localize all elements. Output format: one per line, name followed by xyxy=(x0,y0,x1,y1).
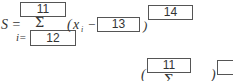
second-partial-box[interactable] xyxy=(217,60,233,75)
second-close-paren: ) xyxy=(211,67,216,81)
variable-subscript: i xyxy=(81,25,83,34)
open-paren: ( xyxy=(67,17,72,33)
close-paren: ) xyxy=(143,18,147,34)
sigma-symbol: Σ xyxy=(35,15,44,30)
variable-x: x xyxy=(73,17,79,33)
second-upper-limit-box[interactable]: 11 xyxy=(147,58,191,73)
subtrahend-box[interactable]: 13 xyxy=(97,17,140,32)
index-label: i= xyxy=(16,31,26,43)
second-sigma-symbol: Σ xyxy=(164,72,173,81)
exponent-box[interactable]: 14 xyxy=(148,5,193,20)
second-open-paren: ( xyxy=(141,67,146,81)
minus-sign: − xyxy=(88,17,95,33)
